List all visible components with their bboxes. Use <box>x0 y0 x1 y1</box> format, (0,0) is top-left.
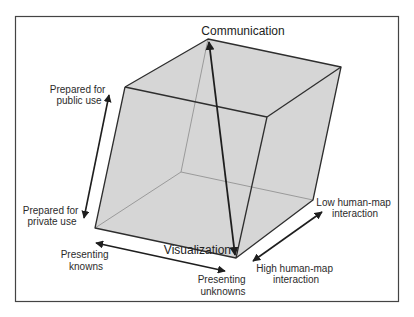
private-use-label: Prepared for private use <box>23 205 81 227</box>
high-interaction-line-2: interaction <box>273 274 319 285</box>
unknowns-line-2: unknowns <box>200 286 245 297</box>
private-use-line-1: Prepared for <box>23 205 79 216</box>
knowns-line-1: Presenting <box>61 249 109 260</box>
visualization-label: Visualization <box>164 243 231 257</box>
unknowns-line-1: Presenting <box>198 274 246 285</box>
unknowns-label: Presenting unknowns <box>198 274 249 297</box>
public-use-line-2: public use <box>56 95 101 106</box>
cube-diagram: Communication Visualization Prepared for… <box>0 0 414 317</box>
low-interaction-line-1: Low human-map <box>316 197 391 208</box>
public-use-label: Prepared for public use <box>50 84 108 106</box>
high-interaction-line-1: High human-map <box>256 263 333 274</box>
knowns-line-2: knowns <box>69 261 103 272</box>
communication-label: Communication <box>201 24 284 38</box>
private-use-line-2: private use <box>28 216 77 227</box>
low-interaction-line-2: interaction <box>332 208 378 219</box>
public-use-line-1: Prepared for <box>50 84 106 95</box>
